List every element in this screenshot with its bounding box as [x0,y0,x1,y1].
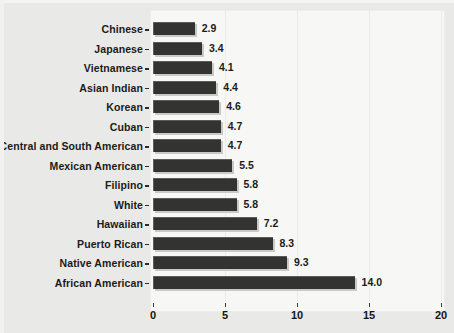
bar-value-label: 5.8 [244,197,259,212]
bar-value-label: 8.3 [280,236,295,251]
bar-value-label: 14.0 [362,275,382,290]
category-label: African American [55,274,143,293]
category-tick-mark [145,29,149,31]
category-label: Filipino [105,176,143,195]
bar [153,120,221,133]
bar [153,237,273,250]
bar-value-label: 4.1 [219,60,234,75]
bar-container [153,100,222,115]
bar-value-label: 5.8 [244,177,259,192]
category-label: Japanese [94,40,143,59]
bar-container [153,120,224,135]
bar-container [153,42,205,57]
x-tick-label: 15 [363,309,375,321]
bar [153,198,237,211]
bar-row: Japanese3.4 [0,40,454,59]
bar [153,256,287,269]
bar-value-label: 5.5 [239,158,254,173]
category-tick-mark [145,244,149,246]
bar [153,42,202,55]
category-tick-mark [145,68,149,70]
category-label: Puerto Rican [77,235,143,254]
bar-row: Central and South American4.7 [0,137,454,156]
bar-row: Hawaiian7.2 [0,215,454,234]
category-label: Cuban [110,118,143,137]
x-tick-label: 5 [222,309,228,321]
bar [153,159,232,172]
bar [153,100,219,113]
bar-row: Vietnamese4.1 [0,59,454,78]
bar-value-label: 7.2 [264,216,279,231]
bar-row: Filipino5.8 [0,176,454,195]
x-axis: 05101520 [0,303,454,333]
x-tick-label: 10 [291,309,303,321]
category-tick-mark [145,127,149,129]
bar [153,22,195,35]
category-label: Hawaiian [97,215,143,234]
bar [153,81,216,94]
bar-rows: Chinese2.9Japanese3.4Vietnamese4.1Asian … [0,0,454,333]
x-tick-label: 0 [150,309,156,321]
bar-container [153,276,358,291]
bar-row: Korean4.6 [0,98,454,117]
bar-value-label: 9.3 [294,255,309,270]
bar-container [153,237,276,252]
bar-row: Puerto Rican8.3 [0,235,454,254]
bar-row: Cuban4.7 [0,118,454,137]
bar-row: Native American9.3 [0,254,454,273]
bar-container [153,22,198,37]
category-tick-mark [145,49,149,51]
category-tick-mark [145,146,149,148]
bar-container [153,81,219,96]
bar-value-label: 4.7 [228,119,243,134]
category-tick-mark [145,283,149,285]
bar-container [153,159,235,174]
bar [153,217,257,230]
category-label: Central and South American [0,137,143,156]
bar-container [153,217,260,232]
category-tick-mark [145,263,149,265]
bar-row: White5.8 [0,196,454,215]
bar-value-label: 4.7 [228,138,243,153]
bar-container [153,198,240,213]
category-tick-mark [145,166,149,168]
bar [153,61,212,74]
category-tick-mark [145,107,149,109]
bar-chart-figure: Chinese2.9Japanese3.4Vietnamese4.1Asian … [0,0,454,333]
category-tick-mark [145,205,149,207]
x-tick-mark [297,303,298,307]
category-label: White [114,196,143,215]
bar-row: Chinese2.9 [0,20,454,39]
category-label: Native American [60,254,143,273]
category-label: Chinese [101,20,143,39]
category-label: Vietnamese [84,59,143,78]
bar [153,276,355,289]
category-tick-mark [145,88,149,90]
category-label: Asian Indian [79,79,143,98]
bar-row: Mexican American5.5 [0,157,454,176]
category-label: Mexican American [50,157,143,176]
bar-container [153,139,224,154]
bar-value-label: 3.4 [209,41,224,56]
bar-container [153,178,240,193]
category-tick-mark [145,224,149,226]
x-tick-mark [225,303,226,307]
bar-container [153,61,215,76]
category-tick-mark [145,185,149,187]
bar [153,139,221,152]
bar-row: Asian Indian4.4 [0,79,454,98]
bar-row: African American14.0 [0,274,454,293]
x-tick-mark [441,303,442,307]
bar-value-label: 4.6 [226,99,241,114]
x-tick-mark [153,303,154,307]
bar [153,178,237,191]
bar-value-label: 2.9 [202,21,217,36]
x-tick-mark [369,303,370,307]
x-tick-label: 20 [435,309,447,321]
category-label: Korean [106,98,143,117]
bar-container [153,256,290,271]
bar-value-label: 4.4 [223,80,238,95]
